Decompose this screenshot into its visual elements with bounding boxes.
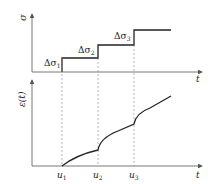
- diagram-canvas: σ t Δσ1 Δσ2 Δσ3 ε(t) t u1 u2: [0, 0, 213, 184]
- time-marker-u2: u2: [93, 170, 103, 181]
- top-t-axis-label: t: [196, 74, 200, 84]
- bottom-t-axis-label: t: [196, 170, 200, 180]
- step-label-1: Δσ1: [44, 58, 60, 69]
- sigma-axis-label: σ: [17, 13, 28, 21]
- time-marker-u3: u3: [129, 170, 139, 181]
- strain-curve: [62, 96, 171, 166]
- step-label-2: Δσ2: [78, 45, 95, 56]
- top-plot: σ t Δσ1 Δσ2 Δσ3: [17, 13, 202, 84]
- bottom-plot: ε(t) t u1 u2 u3: [17, 80, 202, 181]
- step-label-3: Δσ3: [114, 31, 131, 42]
- time-marker-u1: u1: [57, 170, 67, 181]
- epsilon-axis-label: ε(t): [17, 91, 27, 107]
